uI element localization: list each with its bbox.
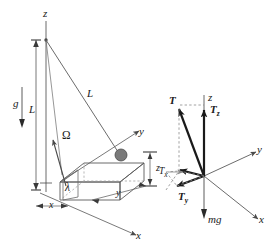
tension-x-label: Tx <box>159 167 168 178</box>
tension-z-symbol: T <box>210 103 217 115</box>
right-x-axis-label: x <box>259 214 264 225</box>
left-x-axis-label: x <box>136 230 141 241</box>
right-z-axis-label: z <box>208 92 212 103</box>
right-y-axis-label: y <box>257 144 262 155</box>
dim-z-arrow-bottom <box>148 179 153 185</box>
left-L-arrow-top <box>33 40 39 47</box>
dim-z-arrow-top <box>148 153 153 159</box>
vertical-length-label: L <box>29 104 35 115</box>
pendulum-bob <box>115 149 127 161</box>
tension-vector <box>179 109 204 176</box>
omega-label: Ω <box>62 130 71 142</box>
gravity-arrow-head <box>19 119 25 128</box>
tension-y-label: Ty <box>178 191 188 205</box>
pendulum-string <box>46 40 120 155</box>
lambda-label: λ <box>65 182 70 194</box>
tension-z-label: Tz <box>210 104 220 118</box>
tension-label: T <box>169 95 176 106</box>
gravity-label: g <box>13 98 19 109</box>
tension-z-subscript: z <box>217 109 220 118</box>
figure-vector-graphics <box>0 0 277 247</box>
tension-x-subscript: x <box>164 170 167 179</box>
tension-y-subscript: y <box>185 196 188 205</box>
tension-x-vector <box>180 170 204 176</box>
left-L-arrow-bottom <box>33 183 39 190</box>
dim-x-label: x <box>49 200 53 210</box>
tension-y-symbol: T <box>178 190 185 202</box>
dim-x-arrow-left <box>36 203 43 208</box>
right-y-axis <box>204 152 256 176</box>
left-y-axis-label: y <box>139 126 144 137</box>
dim-y-label: y <box>116 188 120 198</box>
pendulum-string-secondary <box>46 40 62 175</box>
left-z-axis-label: z <box>43 8 47 19</box>
diagonal-length-label: L <box>87 88 93 99</box>
weight-label: mg <box>208 214 221 225</box>
physics-figure: z g L L Ω λ y x x y z z T Tz Ty Tx mg y … <box>0 0 277 247</box>
weight-arrow-head <box>201 209 207 219</box>
left-diagram-group <box>19 21 157 235</box>
